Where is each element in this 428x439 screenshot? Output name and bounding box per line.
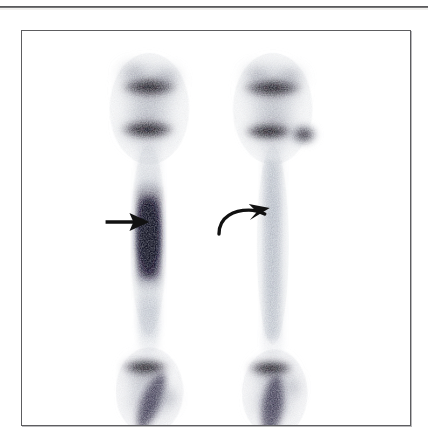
- horizontal-rule-shadow: [0, 8, 428, 10]
- scintigraphy-image: [22, 31, 410, 425]
- figure-frame: [21, 30, 411, 426]
- figure-page: [0, 0, 428, 439]
